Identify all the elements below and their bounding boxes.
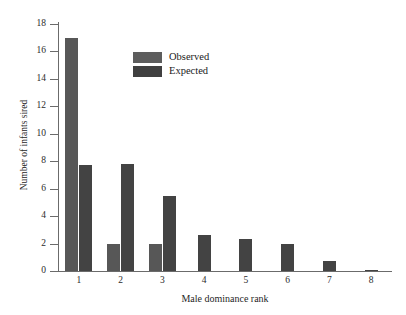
- x-tick-label: 3: [150, 276, 174, 286]
- x-tick-label: 6: [276, 276, 300, 286]
- bar-expected-rank-2: [121, 164, 134, 271]
- chart-figure: 024681012141618 12345678 Number of infan…: [0, 0, 406, 315]
- bar-expected-rank-5: [239, 239, 252, 271]
- x-axis-line: [58, 271, 392, 272]
- x-tick-label: 5: [234, 276, 258, 286]
- x-tick-label: 2: [109, 276, 133, 286]
- x-tick-label: 7: [317, 276, 341, 286]
- chart-legend: ObservedExpected: [133, 51, 209, 77]
- y-axis-title: Number of infants sired: [19, 55, 29, 235]
- bar-expected-rank-3: [163, 196, 176, 271]
- bar-expected-rank-1: [79, 165, 92, 271]
- legend-label-observed: Observed: [169, 52, 209, 63]
- legend-item-expected: Expected: [133, 65, 209, 77]
- y-tick-label: 0: [0, 266, 46, 276]
- bar-observed-rank-2: [107, 244, 120, 271]
- bar-expected-rank-8: [365, 270, 378, 272]
- bar-expected-rank-7: [323, 261, 336, 271]
- y-tick-label: 2: [0, 239, 46, 249]
- bars-layer: [58, 24, 392, 271]
- y-tick-label: 18: [0, 19, 46, 29]
- x-tick-label: 1: [67, 276, 91, 286]
- y-tick-mark: [50, 271, 59, 272]
- legend-label-expected: Expected: [169, 66, 208, 77]
- legend-swatch-expected: [133, 66, 162, 77]
- x-tick-label: 4: [192, 276, 216, 286]
- bar-observed-rank-1: [65, 38, 78, 271]
- legend-item-observed: Observed: [133, 51, 209, 63]
- bar-expected-rank-4: [198, 235, 211, 271]
- x-axis-title: Male dominance rank: [58, 293, 392, 304]
- bar-observed-rank-3: [149, 244, 162, 271]
- bar-expected-rank-6: [281, 244, 294, 271]
- legend-swatch-observed: [133, 52, 162, 63]
- x-tick-label: 8: [359, 276, 383, 286]
